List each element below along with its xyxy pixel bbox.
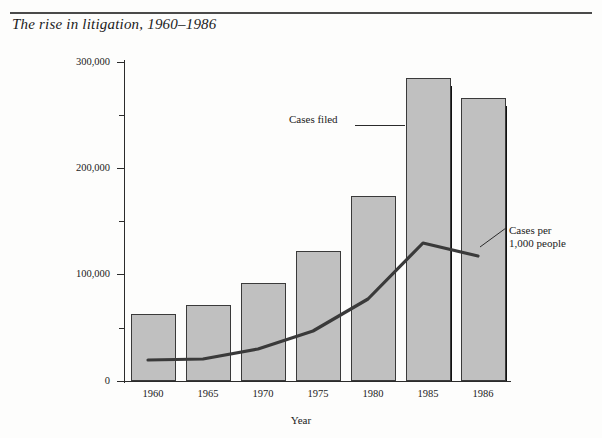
title-rule bbox=[10, 12, 592, 14]
figure-container: The rise in litigation, 1960–1986 300,00… bbox=[0, 0, 602, 438]
x-tick-label-1970: 1970 bbox=[233, 388, 293, 399]
bar-1980 bbox=[351, 196, 396, 381]
page-title: The rise in litigation, 1960–1986 bbox=[12, 16, 217, 33]
y-tick-label-300000: 300,000 bbox=[40, 56, 110, 67]
y-tick-label-0: 0 bbox=[40, 375, 110, 386]
y-tick-label-200000: 200,000 bbox=[40, 162, 110, 173]
annotation-cases-per-line2: 1,000 people bbox=[509, 237, 593, 250]
x-tick-label-1985: 1985 bbox=[398, 388, 458, 399]
x-axis-line bbox=[124, 381, 511, 382]
annotation-cases-filed: Cases filed bbox=[289, 113, 338, 126]
leader-line-cases-filed bbox=[355, 125, 405, 126]
bar-1965 bbox=[186, 305, 231, 381]
x-tick-label-1986: 1986 bbox=[453, 388, 513, 399]
y-tick-250000 bbox=[119, 115, 125, 116]
bar-1975 bbox=[296, 251, 341, 381]
x-tick-label-1975: 1975 bbox=[288, 388, 348, 399]
y-tick-0 bbox=[117, 381, 125, 382]
y-tick-150000 bbox=[119, 221, 125, 222]
annotation-cases-per-1000: Cases per 1,000 people bbox=[509, 224, 593, 250]
x-tick-label-1960: 1960 bbox=[123, 388, 183, 399]
y-tick-50000 bbox=[119, 328, 125, 329]
y-tick-100000 bbox=[117, 274, 125, 275]
bar-1985 bbox=[406, 78, 451, 381]
bar-1970 bbox=[241, 283, 286, 381]
x-tick-label-1965: 1965 bbox=[178, 388, 238, 399]
y-tick-200000 bbox=[117, 168, 125, 169]
y-tick-label-100000: 100,000 bbox=[40, 268, 110, 279]
y-tick-300000 bbox=[117, 62, 125, 63]
x-axis-title: Year bbox=[0, 414, 602, 426]
bar-1960 bbox=[131, 314, 176, 381]
x-tick-label-1980: 1980 bbox=[343, 388, 403, 399]
bar-1986 bbox=[461, 98, 506, 381]
annotation-cases-per-line1: Cases per bbox=[509, 224, 593, 237]
